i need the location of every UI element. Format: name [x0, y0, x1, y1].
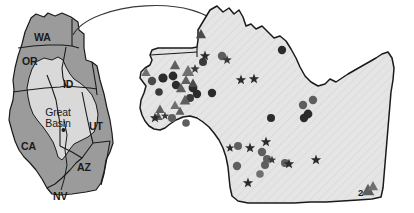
- marker-circle: [261, 161, 269, 169]
- marker-circle: [168, 114, 176, 122]
- marker-circle: [182, 119, 190, 127]
- marker-circle: [193, 90, 201, 98]
- main-map-landmass: [140, 6, 394, 203]
- marker-circle: [155, 88, 163, 96]
- inset-map-group: [9, 13, 113, 195]
- marker-circle: [208, 89, 216, 97]
- marker-circle: [258, 148, 266, 156]
- figure-root: WA OR ID UT CA AZ NV Great Basin 2: [0, 0, 414, 213]
- marker-circle: [158, 73, 167, 82]
- marker-circle: [256, 170, 264, 178]
- marker-circle: [148, 77, 156, 85]
- marker-circle: [234, 142, 242, 150]
- marker-circle: [278, 46, 286, 54]
- marker-circle: [233, 162, 241, 170]
- marker-circle: [169, 72, 178, 81]
- marker-circle: [299, 101, 307, 109]
- marker-circle: [300, 114, 308, 122]
- marker-circle: [309, 96, 317, 104]
- map-canvas: [0, 0, 414, 213]
- marker-circle: [267, 114, 275, 122]
- main-map-group: [140, 6, 394, 203]
